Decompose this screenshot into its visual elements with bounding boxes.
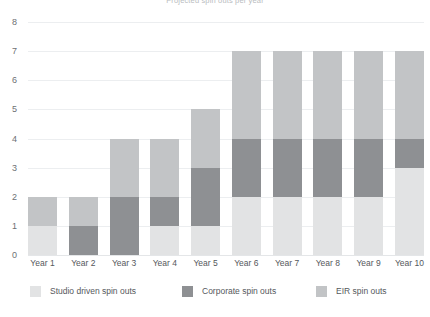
- bar-segment[interactable]: [69, 226, 98, 255]
- bar-segment[interactable]: [69, 197, 98, 226]
- bar-series-group: [28, 22, 424, 255]
- bar-segment[interactable]: [395, 168, 424, 255]
- bar-segment[interactable]: [395, 139, 424, 168]
- bar-segment[interactable]: [273, 197, 302, 255]
- bar-segment[interactable]: [110, 139, 139, 197]
- bar-segment[interactable]: [191, 226, 220, 255]
- x-axis-tick-label: Year 7: [273, 259, 302, 268]
- y-axis-tick-label: 1: [12, 221, 17, 230]
- y-axis-tick-label: 6: [12, 76, 17, 85]
- x-axis-labels: Year 1Year 2Year 3Year 4Year 5Year 6Year…: [28, 259, 424, 268]
- x-axis-tick-label: Year 6: [232, 259, 261, 268]
- y-axis-tick-label: 5: [12, 105, 17, 114]
- legend-item-label: Studio driven spin outs: [50, 287, 136, 296]
- bar-segment[interactable]: [354, 51, 383, 138]
- legend-item-label: EIR spin outs: [336, 287, 387, 296]
- bar-segment[interactable]: [232, 197, 261, 255]
- bar-column[interactable]: [110, 22, 139, 255]
- x-axis-tick-label: Year 4: [150, 259, 179, 268]
- bar-column[interactable]: [313, 22, 342, 255]
- bar-segment[interactable]: [354, 197, 383, 255]
- bar-segment[interactable]: [232, 51, 261, 138]
- bar-segment[interactable]: [28, 226, 57, 255]
- x-axis-tick-label: Year 1: [28, 259, 57, 268]
- legend-item[interactable]: Corporate spin outs: [182, 286, 276, 297]
- legend-swatch-icon: [30, 286, 41, 297]
- y-axis-tick-label: 2: [12, 192, 17, 201]
- legend-swatch-icon: [182, 286, 193, 297]
- bar-segment[interactable]: [191, 168, 220, 226]
- x-axis-tick-label: Year 9: [354, 259, 383, 268]
- bar-column[interactable]: [395, 22, 424, 255]
- bar-column[interactable]: [273, 22, 302, 255]
- legend-swatch-icon: [316, 286, 327, 297]
- bar-segment[interactable]: [150, 197, 179, 226]
- chart-title: Projected spin outs per year: [0, 0, 430, 5]
- bar-segment[interactable]: [28, 197, 57, 226]
- bar-segment[interactable]: [191, 109, 220, 167]
- plot-area: [28, 22, 424, 255]
- gridline: [28, 255, 424, 256]
- x-axis-tick-label: Year 2: [69, 259, 98, 268]
- bar-column[interactable]: [354, 22, 383, 255]
- bar-segment[interactable]: [354, 139, 383, 197]
- bar-column[interactable]: [69, 22, 98, 255]
- y-axis-tick-label: 7: [12, 47, 17, 56]
- bar-segment[interactable]: [232, 139, 261, 197]
- bar-column[interactable]: [150, 22, 179, 255]
- bar-segment[interactable]: [273, 51, 302, 138]
- y-axis-tick-label: 3: [12, 163, 17, 172]
- x-axis-tick-label: Year 8: [313, 259, 342, 268]
- chart-legend: Studio driven spin outsCorporate spin ou…: [28, 286, 424, 300]
- bar-segment[interactable]: [150, 226, 179, 255]
- y-axis-tick-label: 0: [12, 251, 17, 260]
- y-axis-tick-label: 8: [12, 18, 17, 27]
- bar-segment[interactable]: [395, 51, 424, 138]
- x-axis-tick-label: Year 10: [395, 259, 424, 268]
- bar-column[interactable]: [232, 22, 261, 255]
- x-axis-tick-label: Year 3: [110, 259, 139, 268]
- legend-item-label: Corporate spin outs: [202, 287, 276, 296]
- bar-segment[interactable]: [273, 139, 302, 197]
- bar-segment[interactable]: [313, 197, 342, 255]
- x-axis-tick-label: Year 5: [191, 259, 220, 268]
- bar-column[interactable]: [28, 22, 57, 255]
- bar-segment[interactable]: [313, 51, 342, 138]
- bar-segment[interactable]: [110, 197, 139, 255]
- chart-title-strip: Projected spin outs per year: [0, 0, 430, 7]
- legend-item[interactable]: EIR spin outs: [316, 286, 387, 297]
- y-axis-labels: 876543210: [0, 22, 24, 255]
- legend-item[interactable]: Studio driven spin outs: [30, 286, 136, 297]
- stacked-bar-chart: Projected spin outs per year 876543210 Y…: [0, 0, 430, 317]
- bar-column[interactable]: [191, 22, 220, 255]
- y-axis-tick-label: 4: [12, 134, 17, 143]
- bar-segment[interactable]: [313, 139, 342, 197]
- bar-segment[interactable]: [150, 139, 179, 197]
